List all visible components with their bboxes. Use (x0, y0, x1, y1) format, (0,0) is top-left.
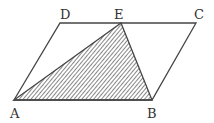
vertex-label-e: E (114, 7, 124, 22)
vertex-label-a: A (9, 106, 20, 121)
shaded-triangle-abe (14, 23, 152, 100)
vertex-label-b: B (147, 106, 157, 121)
geometry-diagram: A B C D E (0, 0, 214, 123)
vertex-label-d: D (60, 7, 70, 22)
vertex-label-c: C (194, 7, 204, 22)
